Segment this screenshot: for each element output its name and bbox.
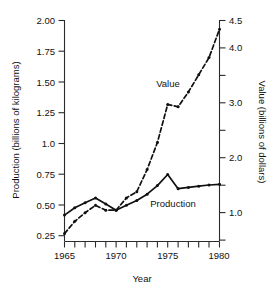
left-tick-label: 0.25 [37, 230, 56, 241]
right-tick-label: 2.0 [229, 152, 242, 163]
chart-figure: 2.00 1.75 1.50 1.25 1.0 0.75 0.50 0.25 4… [0, 0, 270, 299]
x-axis-title: Year [132, 273, 151, 284]
x-tick-label: 1970 [106, 250, 127, 261]
x-axis-tick-labels: 1965 1970 1975 1980 [54, 250, 230, 261]
right-tick-label: 1.0 [229, 207, 242, 218]
right-tick-label: 3.0 [229, 97, 242, 108]
left-tick-label: 1.75 [37, 46, 56, 57]
left-tick-label: 1.25 [37, 107, 56, 118]
value-series-markers [63, 28, 221, 235]
left-axis-ticks [59, 21, 65, 236]
production-series-markers [63, 173, 221, 217]
x-tick-label: 1965 [54, 250, 75, 261]
left-tick-label: 1.0 [42, 138, 55, 149]
left-axis-tick-labels: 2.00 1.75 1.50 1.25 1.0 0.75 0.50 0.25 [37, 15, 56, 241]
production-value-line-chart: 2.00 1.75 1.50 1.25 1.0 0.75 0.50 0.25 4… [0, 0, 270, 299]
x-tick-label: 1975 [157, 250, 178, 261]
right-tick-label: 4.5 [229, 15, 242, 26]
left-tick-label: 0.75 [37, 169, 56, 180]
y-axis-title: Production (billions of kilograms) [10, 61, 21, 198]
right-tick-label: 4.0 [229, 42, 242, 53]
x-axis-ticks [65, 242, 220, 248]
left-tick-label: 1.50 [37, 77, 56, 88]
y2-axis-title: Value (billions of dollars) [257, 81, 268, 184]
left-tick-label: 0.50 [37, 200, 56, 211]
right-axis-ticks [220, 21, 226, 241]
axis-frame [65, 20, 220, 242]
x-tick-label: 1980 [208, 250, 229, 261]
value-series-line [65, 29, 220, 233]
left-tick-label: 2.00 [37, 15, 56, 26]
value-series-label: Value [156, 78, 180, 89]
production-series-label: Production [150, 198, 195, 209]
right-axis-tick-labels: 4.5 4.0 3.0 2.0 1.0 [229, 15, 242, 218]
